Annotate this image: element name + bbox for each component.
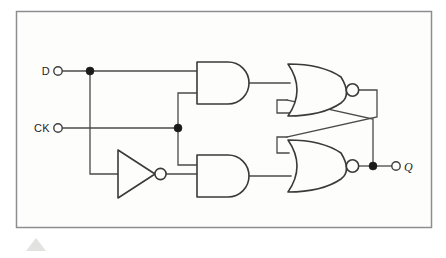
- ck-input-terminal[interactable]: [54, 124, 62, 132]
- nor-gate-bottom-bubble-icon: [346, 160, 358, 172]
- d-input-terminal[interactable]: [54, 67, 62, 75]
- and-gate-bottom-body: [197, 155, 249, 197]
- q-output-terminal[interactable]: [392, 162, 400, 170]
- inverter-bubble-icon: [155, 168, 166, 179]
- circuit-diagram-figure: D CK Q: [0, 0, 446, 258]
- q-output-label: Q: [404, 160, 413, 174]
- and-gate-bottom[interactable]: [197, 155, 249, 197]
- d-fanout-junction: [86, 67, 94, 75]
- d-input-label: D: [42, 65, 50, 77]
- and-gate-top[interactable]: [197, 62, 249, 104]
- ck-input-label: CK: [34, 122, 50, 134]
- ck-fanout-junction: [174, 124, 182, 132]
- nor-gate-top-bubble-icon: [346, 84, 358, 96]
- and-gate-top-body: [197, 62, 249, 104]
- q-fanout-junction: [369, 162, 377, 170]
- circuit-diagram-canvas: D CK Q: [0, 0, 446, 258]
